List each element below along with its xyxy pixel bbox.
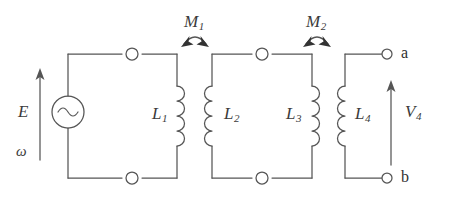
output-voltage-subscript: 4 [415,110,421,122]
coupling-m2-name: M [306,12,320,31]
emf-label: E [18,103,28,120]
inductor-l3-label: L3 [286,105,301,124]
coil-l2 [205,86,212,146]
node-bottom-middle-circle [256,172,268,184]
coupling-m1-label: M1 [184,13,204,32]
terminal-b-label: b [401,169,409,185]
circuit-schematic-svg [0,0,449,206]
inductor-l4-label: L4 [355,105,370,124]
inductor-l3-subscript: 3 [295,112,301,124]
frequency-label: ω [16,144,27,159]
coil-l4 [338,86,345,146]
node-bottom-left-circle [126,172,138,184]
output-voltage-label: V4 [405,103,421,122]
inductor-l2-label: L2 [224,105,239,124]
inductor-l4-subscript: 4 [364,112,370,124]
coil-l1 [177,86,185,146]
circuit-diagram: E ω L1 L2 L3 L4 M1 M2 V4 a b [0,0,449,206]
terminal-b-circle [382,173,392,183]
coupling-m1-name: M [184,12,198,31]
coupling-m1-subscript: 1 [198,20,204,32]
node-top-left-circle [126,48,138,60]
terminal-a-circle [382,49,392,59]
inductor-l1-label: L1 [152,105,167,124]
coil-l3 [312,86,320,146]
sine-wave-icon [58,108,78,116]
inductor-l1-subscript: 1 [161,112,167,124]
node-top-middle-circle [256,48,268,60]
coupling-m2-subscript: 2 [320,20,326,32]
output-voltage-name: V [405,102,415,121]
coupling-m2-label: M2 [306,13,326,32]
inductor-l2-subscript: 2 [233,112,239,124]
terminal-a-label: a [401,45,408,61]
